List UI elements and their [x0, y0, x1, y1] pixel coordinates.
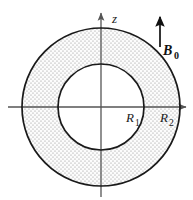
b0-label-base: B	[162, 43, 172, 58]
r2-label-base: R	[159, 110, 168, 125]
annulus-region	[0, 0, 193, 200]
figure-canvas: z B 0 R 1 R 2	[0, 0, 193, 200]
physics-figure: z B 0 R 1 R 2	[0, 0, 193, 200]
b0-label-subscript: 0	[174, 50, 179, 61]
r2-label-subscript: 2	[169, 118, 174, 128]
r1-label-base: R	[125, 110, 134, 125]
z-axis-label: z	[111, 11, 117, 26]
r1-label-subscript: 1	[135, 118, 140, 128]
